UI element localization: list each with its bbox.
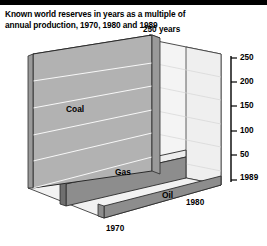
series-label-gas: Gas	[115, 167, 131, 177]
bar-coal-right-cap	[152, 35, 160, 174]
chart-canvas: 250 years 250 200 150 100 50 Coal Gas Oi…	[0, 0, 267, 246]
depth-label-1970: 1970	[106, 224, 124, 233]
y-tick-200: 200	[240, 77, 254, 86]
depth-label-1989: 1989	[240, 173, 258, 182]
y-axis	[231, 56, 237, 182]
series-label-coal: Coal	[66, 104, 84, 114]
y-tick-100: 100	[240, 126, 254, 135]
y-tick-250: 250	[240, 53, 254, 62]
chart-svg	[0, 0, 267, 246]
annotation-peak-label: 250 years	[143, 25, 180, 34]
series-label-oil: Oil	[162, 190, 173, 200]
y-tick-50: 50	[240, 150, 249, 159]
bar-coal	[28, 35, 160, 188]
y-axis-ticks	[231, 58, 237, 180]
depth-label-1980: 1980	[186, 198, 204, 207]
bar-coal-face	[33, 35, 152, 188]
back-wall-right	[186, 47, 221, 185]
bar-coal-left-cap	[28, 54, 33, 188]
bar-oil-left-cap	[98, 204, 104, 218]
y-tick-150: 150	[240, 101, 254, 110]
